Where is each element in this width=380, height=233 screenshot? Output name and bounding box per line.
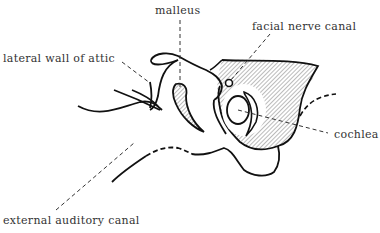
label-external-auditory-canal: external auditory canal (3, 214, 140, 227)
lateral-wall-leader (122, 62, 150, 83)
label-facial-nerve-canal: facial nerve canal (252, 20, 356, 33)
facial-nerve-canal-shape (226, 80, 233, 87)
label-lateral-wall-of-attic: lateral wall of attic (3, 52, 115, 65)
malleus-shape (173, 84, 204, 132)
label-cochlea: cochlea (334, 128, 379, 141)
label-malleus: malleus (155, 4, 200, 17)
diagram-drawing (0, 0, 380, 233)
ear-anatomy-diagram: malleus facial nerve canal lateral wall … (0, 0, 380, 233)
external-canal-leader (56, 143, 134, 210)
